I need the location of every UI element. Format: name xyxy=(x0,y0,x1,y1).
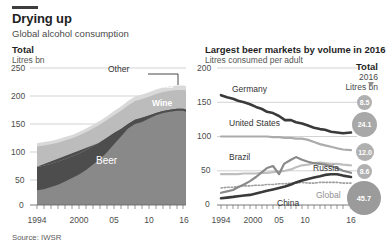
source-note: Source: IWSR xyxy=(12,233,61,242)
left-ytick-250: 250 xyxy=(11,63,25,73)
bubble-russia-total: 8.6 xyxy=(357,164,372,179)
bubble-united-states-value: 24.1 xyxy=(358,121,372,128)
bubble-global-total: 45.7 xyxy=(347,181,381,215)
series-label-wine: Wine xyxy=(152,98,172,108)
bubble-germany-value: 8.5 xyxy=(360,99,370,106)
series-label-spirits: Spirits xyxy=(147,80,173,90)
right-xtick-2000: 2000 xyxy=(244,215,263,225)
bubble-russia-value: 8.6 xyxy=(360,168,370,175)
left-chart-title: Total xyxy=(12,44,34,55)
page-subtitle: Global alcohol consumption xyxy=(12,28,129,39)
right-ytick-100: 100 xyxy=(197,131,211,141)
accent-rule xyxy=(12,6,38,9)
bubble-germany-total: 8.5 xyxy=(357,95,372,110)
right-ytick-50: 50 xyxy=(201,165,210,175)
right-chart-title: Largest beer markets by volume in 2016 xyxy=(205,44,386,55)
right-xtick-10: 10 xyxy=(300,215,309,225)
left-ytick-0: 0 xyxy=(19,200,24,210)
left-xtick-2000: 2000 xyxy=(70,215,89,225)
bubble-brazil-total: 12.0 xyxy=(356,143,374,161)
left-xtick-1994: 1994 xyxy=(28,215,47,225)
bubble-united-states-total: 24.1 xyxy=(352,112,377,137)
left-ytick-50: 50 xyxy=(15,175,24,185)
series-label-germany: Germany xyxy=(232,84,267,94)
bubble-brazil-value: 12.0 xyxy=(358,149,372,156)
series-label-brazil: Brazil xyxy=(229,152,250,162)
bubble-global-value: 45.7 xyxy=(357,194,372,203)
bubble-pointer-icon xyxy=(368,82,374,87)
series-label-china: China xyxy=(277,198,299,208)
left-xtick-05: 05 xyxy=(109,215,118,225)
line-united-states xyxy=(221,137,351,151)
right-ytick-150: 150 xyxy=(197,97,211,107)
series-label-global: Global xyxy=(316,190,341,200)
series-label-beer: Beer xyxy=(96,155,117,166)
series-label-united-states: United States xyxy=(229,118,280,128)
left-x-axis xyxy=(30,205,186,209)
page-title: Drying up xyxy=(12,11,72,26)
right-xtick-05: 05 xyxy=(274,215,283,225)
left-ytick-100: 100 xyxy=(11,147,25,157)
right-ytick-0: 0 xyxy=(205,199,210,209)
left-xtick-16: 16 xyxy=(179,215,188,225)
infographic-page: Drying up Global alcohol consumption Tot… xyxy=(0,0,389,251)
left-ytick-150: 150 xyxy=(11,119,25,129)
right-xtick-16: 16 xyxy=(346,215,355,225)
right-xtick-1994: 1994 xyxy=(212,215,231,225)
left-xtick-10: 10 xyxy=(144,215,153,225)
series-label-other: Other xyxy=(108,64,129,74)
right-ytick-200: 200 xyxy=(197,63,211,73)
series-label-russia: Russia xyxy=(313,163,339,173)
left-ytick-200: 200 xyxy=(11,91,25,101)
